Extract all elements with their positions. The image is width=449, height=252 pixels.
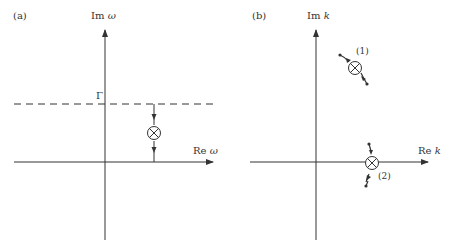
im-omega-label: Im ω: [91, 11, 116, 21]
omega-plane-diagram: [0, 0, 225, 252]
arrow-down-icon: [152, 147, 157, 153]
panel-a-omega-plane: (a) Im ω Γ Re ω: [0, 0, 225, 252]
panel-a-label: (a): [13, 11, 27, 21]
panel-b-k-plane: (b) Im k (1) Re k (2): [225, 0, 449, 252]
omega-var: ω: [210, 145, 218, 156]
pole-1-crossed-circle-icon: [349, 62, 362, 75]
pole-1-label: (1): [356, 47, 369, 56]
re-prefix: Re: [193, 145, 206, 156]
omega-var: ω: [108, 10, 116, 21]
re-k-label: Re k: [418, 146, 441, 156]
pole-crossed-circle-icon: [148, 127, 161, 140]
pole-2-label: (2): [378, 172, 391, 181]
panel-b-label: (b): [252, 11, 266, 21]
k-plane-diagram: [225, 0, 449, 252]
k-var: k: [324, 10, 330, 21]
k-var: k: [435, 145, 441, 156]
pole-2-crossed-circle-icon: [366, 157, 379, 170]
gamma-label: Γ: [96, 91, 103, 101]
im-k-label: Im k: [307, 11, 330, 21]
arrow-down-icon: [152, 114, 157, 120]
re-omega-label: Re ω: [193, 146, 218, 156]
re-prefix: Re: [418, 145, 431, 156]
im-prefix: Im: [91, 10, 104, 21]
im-prefix: Im: [307, 10, 320, 21]
